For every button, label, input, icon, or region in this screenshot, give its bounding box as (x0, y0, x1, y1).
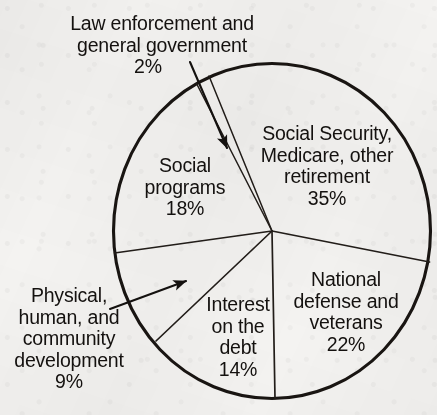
pie-chart-canvas: Law enforcement and general government 2… (0, 0, 437, 415)
label-interest-line2: on the (211, 315, 264, 337)
label-social-security-line3: retirement (284, 165, 371, 187)
label-interest-line1: Interest (206, 293, 270, 315)
label-law-enforcement: Law enforcement and general government 2… (70, 12, 254, 77)
pie-chart-figure: Law enforcement and general government 2… (0, 0, 437, 415)
label-social-security-medicare: Social Security, Medicare, other retirem… (261, 122, 394, 209)
label-interest-value: 14% (219, 358, 257, 380)
label-physical-human-line1: Physical, (31, 284, 107, 306)
divider-interest-national-defense (272, 231, 275, 399)
label-social-programs-value: 18% (166, 197, 204, 219)
label-national-defense-value: 22% (327, 333, 365, 355)
divider-national-defense-social-security (272, 231, 430, 262)
label-national-defense-veterans: National defense and veterans 22% (293, 268, 398, 355)
divider-social-programs-physical-human (115, 231, 273, 253)
label-physical-human-value: 9% (55, 370, 83, 392)
label-physical-human-line2: human, and (19, 306, 120, 328)
label-law-enforcement-line2: general government (77, 34, 248, 56)
label-national-defense-line3: veterans (309, 311, 383, 333)
label-law-enforcement-line1: Law enforcement and (70, 12, 254, 34)
label-national-defense-line1: National (311, 268, 381, 290)
label-social-programs-line1: Social (159, 154, 211, 176)
label-social-security-line1: Social Security, (262, 122, 392, 144)
label-interest-on-the-debt: Interest on the debt 14% (206, 293, 270, 380)
label-social-programs-line2: programs (145, 176, 226, 198)
label-physical-human-line3: community (23, 327, 116, 349)
label-social-security-line2: Medicare, other (261, 144, 394, 166)
label-physical-human-line4: development (14, 349, 124, 371)
label-law-enforcement-value: 2% (134, 55, 162, 77)
label-physical-human-community: Physical, human, and community developme… (14, 284, 124, 392)
label-social-programs: Social programs 18% (145, 154, 226, 219)
label-interest-line3: debt (219, 336, 257, 358)
label-social-security-value: 35% (308, 187, 346, 209)
label-national-defense-line2: defense and (293, 290, 398, 312)
